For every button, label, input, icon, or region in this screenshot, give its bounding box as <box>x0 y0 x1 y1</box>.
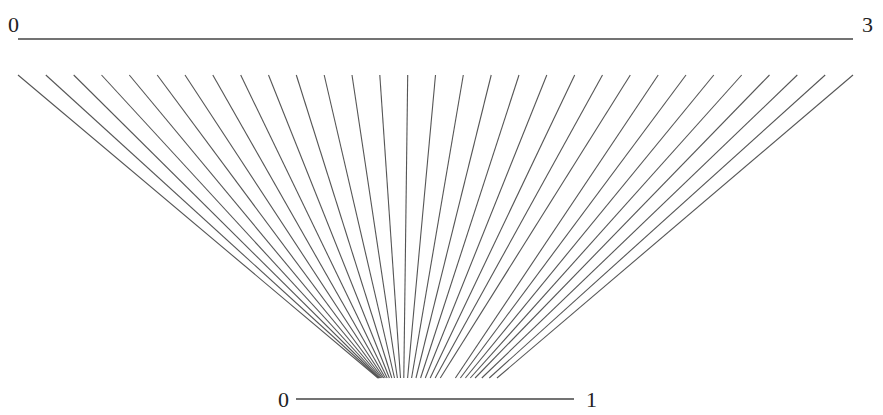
mapping-ray <box>296 75 392 378</box>
mapping-ray <box>497 75 853 378</box>
mapping-diagram: 0 3 0 1 <box>0 0 883 415</box>
mapping-ray <box>404 75 408 378</box>
mapping-ray <box>185 75 384 378</box>
mapping-ray <box>412 75 464 378</box>
mapping-ray <box>157 75 382 378</box>
mapping-ray <box>74 75 380 378</box>
mapping-ray <box>421 75 519 378</box>
mapping-ray <box>18 75 378 378</box>
bottom-axis-end-label: 1 <box>586 387 597 412</box>
mapping-ray <box>440 75 630 378</box>
top-axis-start-label: 0 <box>8 12 19 37</box>
mapping-ray <box>460 75 686 378</box>
mapping-ray <box>470 75 741 378</box>
mapping-ray <box>102 75 381 378</box>
top-axis-end-label: 3 <box>862 12 873 37</box>
mapping-ray <box>489 75 825 378</box>
mapping-ray <box>408 75 436 378</box>
mapping-ray <box>241 75 388 378</box>
mapping-ray <box>416 75 491 378</box>
bottom-axis-start-label: 0 <box>278 387 289 412</box>
mapping-rays <box>18 75 853 378</box>
mapping-ray <box>129 75 381 378</box>
